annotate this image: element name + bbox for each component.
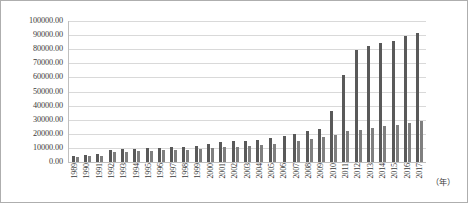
x-axis-tick-label: 1999 [194,163,202,179]
bar [186,150,189,162]
bar-group [204,21,216,162]
bar [342,75,345,162]
bar [318,129,321,162]
bar [346,131,349,162]
bar [72,156,75,162]
bar [408,123,411,162]
x-axis-tick-label: 1995 [145,163,153,179]
y-axis-tick-label: 30000.00 [1,116,63,124]
x-axis-tick-label: 1991 [96,163,104,179]
x-axis-tick-label: 1990 [83,163,91,179]
x-axis-tick-label: 2002 [231,163,239,179]
bar-group [81,21,93,162]
bar [84,155,87,162]
bar [100,156,103,162]
x-axis-tick-label: 2012 [354,163,362,179]
y-axis-tick-label: 50000.00 [1,88,63,96]
bar [195,146,198,162]
y-axis-tick-label: 40000.00 [1,102,63,110]
bar [158,148,161,162]
bar-group [278,21,290,162]
bar [162,150,165,162]
bar [379,43,382,162]
bar [297,141,300,162]
bar-group [266,21,278,162]
bar [174,150,177,162]
bar [371,128,374,162]
x-axis-tick-label: 2011 [342,163,350,178]
bar-group [352,21,364,162]
bar [137,151,140,162]
bar [310,139,313,162]
bar [248,146,251,162]
bar-group [340,21,352,162]
x-axis-tick-label: 2006 [280,163,288,179]
bar [396,125,399,162]
bar-group [94,21,106,162]
bar [244,141,247,162]
y-axis-tick-label: 20000.00 [1,130,63,138]
bar [121,149,124,162]
y-axis-tick-label: 0.00 [1,158,63,166]
x-axis-tick-label: 2007 [293,163,301,179]
x-axis-tick-label: 1998 [182,163,190,179]
bar [232,141,235,162]
bar [76,157,79,162]
bar [293,134,296,162]
x-axis-tick-label: 2003 [244,163,252,179]
x-axis-tick-label: 2014 [379,163,387,179]
bar [236,147,239,163]
bar [359,130,362,162]
x-axis-tick-label: 1989 [71,163,79,179]
bar [273,144,276,162]
bar-group [315,21,327,162]
bar [113,152,116,162]
bar [146,148,149,162]
bar [322,137,325,162]
bar [355,50,358,162]
x-axis-tick-label: 2010 [330,163,338,179]
bar-group [364,21,376,162]
bar-group [328,21,340,162]
x-axis-tick-label: 2008 [305,163,313,179]
bar-group [106,21,118,162]
bar-group [167,21,179,162]
x-axis-tick-labels: 1989199019911992199319941995199619971998… [69,163,426,203]
bar-group [303,21,315,162]
bar [306,131,309,162]
x-axis-tick-label: 2013 [367,163,375,179]
bar [283,136,286,162]
bar-group [254,21,266,162]
bar [133,149,136,162]
y-axis-tick-label: 90000.00 [1,31,63,39]
x-axis-title: （年） [431,179,455,187]
y-axis-tick-label: 60000.00 [1,73,63,81]
bar [96,154,99,162]
bar-group [241,21,253,162]
x-axis-tick-label: 2001 [219,163,227,179]
bar-group [217,21,229,162]
bar-group [229,21,241,162]
bar [416,33,419,162]
bar-group [131,21,143,162]
bar [269,138,272,162]
x-axis-tick-label: 1993 [120,163,128,179]
y-axis-tick-label: 70000.00 [1,59,63,67]
bar [182,147,185,163]
bar [383,126,386,162]
y-axis-tick-label: 80000.00 [1,45,63,53]
x-axis-tick-label: 1996 [157,163,165,179]
bar-group [291,21,303,162]
bar [420,121,423,162]
bar [88,156,91,162]
bar-group [143,21,155,162]
y-axis-tick-labels: 100000.0090000.0080000.0070000.0060000.0… [1,1,67,182]
x-axis-tick-label: 2004 [256,163,264,179]
bar [211,148,214,162]
y-axis-tick-label: 100000.00 [1,17,63,25]
bar [392,41,395,162]
bar-group [377,21,389,162]
bar-chart-figure: 100000.0090000.0080000.0070000.0060000.0… [0,0,468,203]
y-axis-tick-label: 10000.00 [1,144,63,152]
bar [207,144,210,162]
